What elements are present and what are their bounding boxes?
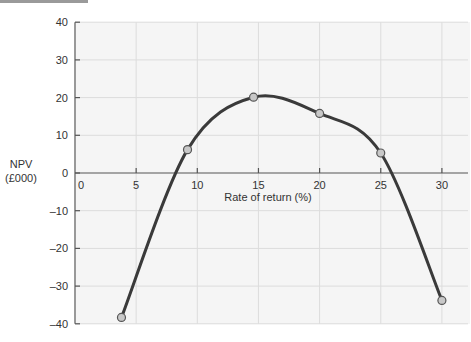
y-tick-label: 40 xyxy=(56,16,68,28)
x-tick-label: 10 xyxy=(191,179,203,191)
data-point xyxy=(438,296,446,304)
y-tick-label: –40 xyxy=(50,318,68,330)
data-point xyxy=(250,93,258,101)
y-tick-label: 0 xyxy=(62,167,68,179)
y-axis-title-line1: NPV xyxy=(10,158,33,170)
y-tick-label: –20 xyxy=(50,242,68,254)
y-tick-label: –10 xyxy=(50,205,68,217)
x-tick-label: 20 xyxy=(313,179,325,191)
x-tick-label: 5 xyxy=(133,179,139,191)
npv-chart: 403020100–10–20–30–40 051015202530 Rate … xyxy=(0,0,471,342)
x-tick-label: 25 xyxy=(375,179,387,191)
x-tick-label: 30 xyxy=(436,179,448,191)
data-point xyxy=(117,313,125,321)
y-tick-label: 20 xyxy=(56,92,68,104)
x-tick-label: 0 xyxy=(78,179,84,191)
x-tick-label: 15 xyxy=(252,179,264,191)
x-axis-title: Rate of return (%) xyxy=(224,191,311,203)
y-tick-label: –30 xyxy=(50,280,68,292)
y-tick-label: 10 xyxy=(56,129,68,141)
data-point xyxy=(377,149,385,157)
data-point xyxy=(316,109,324,117)
y-axis-title-line2: (£000) xyxy=(5,172,37,184)
data-point xyxy=(184,146,192,154)
y-tick-label: 30 xyxy=(56,54,68,66)
